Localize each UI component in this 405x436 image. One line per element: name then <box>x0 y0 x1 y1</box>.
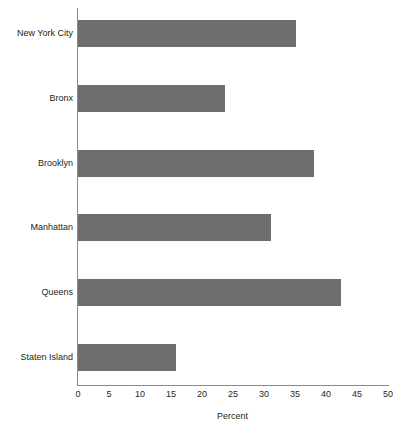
category-label-text: Queens <box>41 287 76 298</box>
category-label-text: Brooklyn <box>38 158 76 169</box>
category-label-0: New York City <box>0 20 76 47</box>
x-tick-label: 50 <box>376 389 400 400</box>
bar-new-york-city <box>78 20 296 47</box>
x-tick-label: 35 <box>283 389 307 400</box>
x-tick-label: 10 <box>128 389 152 400</box>
x-tick-label: 20 <box>190 389 214 400</box>
category-label-text: Manhattan <box>30 222 76 233</box>
category-label-text: New York City <box>17 28 76 39</box>
bar-queens <box>78 279 341 306</box>
x-tick-label: 0 <box>66 389 90 400</box>
bar-brooklyn <box>78 150 314 177</box>
x-tick-label: 5 <box>97 389 121 400</box>
x-axis-line <box>77 385 389 386</box>
x-axis-title: Percent <box>0 411 405 422</box>
x-tick-label: 45 <box>345 389 369 400</box>
category-label-5: Staten Island <box>0 344 76 371</box>
category-label-text: Staten Island <box>20 352 76 363</box>
x-tick-label: 30 <box>252 389 276 400</box>
x-tick-label: 40 <box>314 389 338 400</box>
category-label-1: Bronx <box>0 85 76 112</box>
x-tick-label: 25 <box>221 389 245 400</box>
x-axis-title-text: Percent <box>217 411 248 422</box>
y-axis-line <box>77 8 78 386</box>
x-tick-label: 15 <box>159 389 183 400</box>
bar-staten-island <box>78 344 176 371</box>
category-label-2: Brooklyn <box>0 150 76 177</box>
category-label-3: Manhattan <box>0 214 76 241</box>
bar-chart: New York City Bronx Brooklyn Manhattan Q… <box>0 0 405 436</box>
category-label-4: Queens <box>0 279 76 306</box>
bar-manhattan <box>78 214 271 241</box>
bar-bronx <box>78 85 225 112</box>
category-label-text: Bronx <box>49 93 76 104</box>
